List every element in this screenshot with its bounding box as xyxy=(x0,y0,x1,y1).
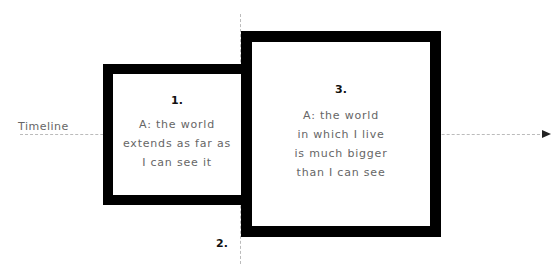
box-3: 3. A: the world in which I live is much … xyxy=(241,31,441,237)
box-1-number: 1. xyxy=(113,94,241,107)
box-3-number: 3. xyxy=(252,83,430,96)
arrow-head-icon xyxy=(542,130,551,138)
box-1-text: A: the world extends as far as I can see… xyxy=(113,115,241,172)
box-3-text: A: the world in which I live is much big… xyxy=(252,106,430,182)
marker-2-label: 2. xyxy=(216,237,228,250)
box-1: 1. A: the world extends as far as I can … xyxy=(103,64,251,205)
timeline-label: Timeline xyxy=(18,120,69,133)
